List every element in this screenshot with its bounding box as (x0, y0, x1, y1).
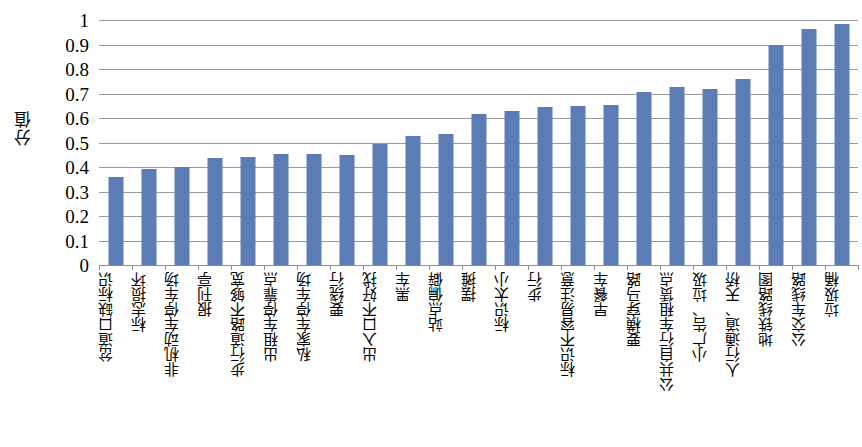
y-axis-tick-label: 0.2 (65, 207, 89, 226)
x-axis-category-label-text: 出入口不好找 (363, 272, 378, 362)
bar-slot (627, 20, 660, 265)
x-axis-tick (99, 265, 100, 270)
x-axis-category-label: 黑车 (396, 272, 429, 447)
x-axis-category-label: 小广告、垃圾 (693, 272, 726, 447)
x-axis-category-labels: 岔道口缺标识标志损坏非机动车停车场报刊亭步行道路不够宽出租车停靠点私家车停车场要… (99, 272, 858, 447)
bar-slot (726, 20, 759, 265)
bar[interactable] (504, 111, 519, 265)
bar-slot (693, 20, 726, 265)
x-axis-category-label-text: 步行道路不够宽 (231, 272, 246, 377)
bar-slot (528, 20, 561, 265)
bar[interactable] (834, 24, 849, 265)
y-axis-tick-label: 0.6 (65, 109, 89, 128)
bar-slot (264, 20, 297, 265)
bar[interactable] (537, 107, 552, 265)
x-axis-category-label-text: 小广告、垃圾 (693, 272, 708, 362)
x-axis-category-label: 摆摊 (462, 272, 495, 447)
bar[interactable] (372, 144, 387, 265)
x-axis-category-label-text: 地铁线路图 (759, 272, 774, 347)
bars-layer (99, 20, 858, 265)
x-axis-category-label-text: 垃圾桶 (825, 272, 840, 317)
x-axis-category-label-text: 要绕行 (330, 272, 345, 317)
bar[interactable] (207, 158, 222, 265)
bar[interactable] (405, 136, 420, 265)
x-axis-tick (825, 265, 826, 270)
bar[interactable] (471, 114, 486, 265)
y-axis-tick-labels: 10.90.80.70.60.50.40.30.20.10 (42, 0, 94, 290)
x-axis-tick (198, 265, 199, 270)
bar-slot (231, 20, 264, 265)
x-axis-category-label: 步行道路不够宽 (231, 272, 264, 447)
x-axis-category-label: 公共自行车租赁点 (660, 272, 693, 447)
x-axis-tick (330, 265, 331, 270)
x-axis-category-label-text: 站点偏僻 (429, 272, 444, 332)
bar-slot (462, 20, 495, 265)
x-axis-tick (165, 265, 166, 270)
x-axis-tick (297, 265, 298, 270)
x-axis-tick (495, 265, 496, 270)
x-axis-category-label: 标识太小 (495, 272, 528, 447)
bar-slot (561, 20, 594, 265)
y-axis-tick-label: 0.5 (65, 133, 89, 152)
x-axis-category-label-text: 报刊亭 (198, 272, 213, 317)
bar-slot (198, 20, 231, 265)
bar[interactable] (801, 29, 816, 265)
x-axis-tick (363, 265, 364, 270)
x-axis-category-label: 出入口不好找 (363, 272, 396, 447)
x-axis-category-label-text: 早餐车 (594, 272, 609, 317)
bar[interactable] (636, 92, 651, 265)
bar[interactable] (273, 154, 288, 265)
y-axis-tick-label: 0 (80, 256, 90, 275)
x-axis-category-label: 公交车线路 (792, 272, 825, 447)
bar-slot (330, 20, 363, 265)
bar[interactable] (768, 45, 783, 266)
x-axis-category-label-text: 岔道口缺标识 (99, 272, 114, 362)
x-axis-tick (528, 265, 529, 270)
x-axis-category-label: 人行通道、天桥 (726, 272, 759, 447)
x-axis-category-label-text: 标志损坏 (132, 272, 147, 332)
x-axis-ticks (99, 265, 858, 271)
x-axis-category-label: 早餐车 (594, 272, 627, 447)
y-axis-title: 分值 (2, 88, 42, 168)
bar[interactable] (108, 177, 123, 265)
x-axis-tick (594, 265, 595, 270)
bar-slot (363, 20, 396, 265)
y-axis-tick-label: 0.1 (65, 231, 89, 250)
y-axis-tick-label: 0.4 (65, 158, 89, 177)
bar-slot (99, 20, 132, 265)
x-axis-category-label: 岔道口缺标识 (99, 272, 132, 447)
bar-slot (759, 20, 792, 265)
x-axis-category-label-text: 公共自行车租赁点 (660, 272, 675, 392)
x-axis-category-label-text: 标识太小 (495, 272, 510, 332)
y-axis-tick-label: 0.7 (65, 84, 89, 103)
plot-area (99, 20, 858, 265)
x-axis-category-label: 非机动车停车场 (165, 272, 198, 447)
bar[interactable] (735, 79, 750, 265)
x-axis-category-label: 步行 (528, 272, 561, 447)
bar[interactable] (570, 106, 585, 265)
y-axis-title-text: 分值 (10, 110, 35, 146)
x-axis-category-label: 私家车停车场 (297, 272, 330, 447)
y-axis-tick-label: 1 (80, 11, 90, 30)
x-axis-category-label: 要绕行 (330, 272, 363, 447)
bar-slot (495, 20, 528, 265)
bar[interactable] (438, 134, 453, 265)
x-axis-category-label: 报刊亭 (198, 272, 231, 447)
bar[interactable] (702, 89, 717, 265)
x-axis-tick (429, 265, 430, 270)
bar[interactable] (669, 87, 684, 265)
y-axis-tick-label: 0.3 (65, 182, 89, 201)
bar[interactable] (174, 167, 189, 265)
x-axis-category-label-text: 步行 (528, 272, 543, 302)
x-axis-category-label-text: 非机动车停车场 (165, 272, 180, 377)
x-axis-tick (759, 265, 760, 270)
bar[interactable] (141, 169, 156, 265)
x-axis-tick (858, 265, 859, 270)
bar[interactable] (240, 157, 255, 265)
x-axis-category-label-text: 私家车停车场 (297, 272, 312, 362)
bar[interactable] (603, 105, 618, 265)
bar[interactable] (339, 155, 354, 265)
x-axis-category-label-text: 公交车线路 (792, 272, 807, 347)
bar[interactable] (306, 154, 321, 265)
x-axis-category-label: 垃圾桶 (825, 272, 858, 447)
